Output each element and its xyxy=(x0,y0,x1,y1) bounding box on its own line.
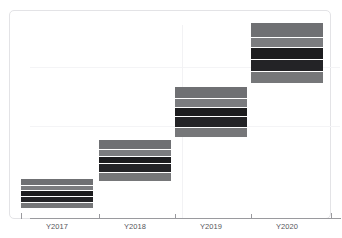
chart-screenshot: Y2017Y2018Y2019Y2020 xyxy=(0,0,342,238)
x-axis-tick-3 xyxy=(251,214,252,219)
bar-band-band-5 xyxy=(251,72,323,83)
x-axis-tick-1 xyxy=(99,214,100,219)
x-axis-tick-2 xyxy=(175,214,176,219)
bar-band-band-1 xyxy=(175,87,247,98)
bar-band-band-3 xyxy=(99,157,171,164)
bar-y2017[interactable] xyxy=(21,179,93,208)
bar-band-band-4 xyxy=(251,60,323,72)
bar-band-band-3 xyxy=(251,48,323,59)
x-axis-label-y2018: Y2018 xyxy=(96,222,174,231)
bar-band-band-5 xyxy=(99,173,171,181)
bar-y2019[interactable] xyxy=(175,87,247,137)
bar-band-band-2 xyxy=(251,38,323,48)
bar-band-band-1 xyxy=(99,140,171,149)
bar-band-band-5 xyxy=(175,128,247,137)
chart-frame: Y2017Y2018Y2019Y2020 xyxy=(9,10,331,219)
bar-band-band-4 xyxy=(99,164,171,172)
bar-band-band-3 xyxy=(175,108,247,117)
bar-y2020[interactable] xyxy=(251,23,323,83)
x-axis-label-y2017: Y2017 xyxy=(18,222,96,231)
x-axis-tick-0 xyxy=(21,213,22,219)
bar-band-band-1 xyxy=(251,23,323,37)
bar-y2018[interactable] xyxy=(99,140,171,181)
x-axis-line xyxy=(30,218,341,219)
bar-band-band-4 xyxy=(175,117,247,127)
x-axis-label-y2019: Y2019 xyxy=(172,222,250,231)
bar-band-band-5 xyxy=(21,203,93,208)
bar-band-band-2 xyxy=(175,99,247,107)
x-axis-label-y2020: Y2020 xyxy=(248,222,326,231)
x-axis-tick-4 xyxy=(331,213,332,219)
